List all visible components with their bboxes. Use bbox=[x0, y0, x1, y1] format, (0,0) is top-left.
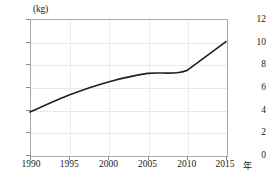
y-tick-label-0: 0 bbox=[240, 150, 266, 160]
x-tick-label-1995: 1995 bbox=[60, 159, 79, 170]
x-tick-label-2000: 2000 bbox=[99, 159, 118, 170]
x-tick-label-1990: 1990 bbox=[22, 159, 41, 170]
y-tick-label-8: 8 bbox=[240, 59, 266, 69]
series-line-layer bbox=[30, 19, 226, 155]
y-tick-label-12: 12 bbox=[240, 14, 266, 24]
chart-figure: (kg) 12 10 8 6 4 2 0 1990 1995 2000 2005… bbox=[0, 0, 266, 179]
data-series-line bbox=[30, 42, 226, 112]
y-tick-label-6: 6 bbox=[240, 82, 266, 92]
y-axis-unit-label: (kg) bbox=[33, 3, 48, 15]
y-tick-label-4: 4 bbox=[240, 105, 266, 115]
x-tick-label-2010: 2010 bbox=[177, 159, 196, 170]
x-tick-label-2005: 2005 bbox=[138, 159, 157, 170]
y-tick-label-2: 2 bbox=[240, 127, 266, 137]
y-tick-label-10: 10 bbox=[240, 37, 266, 47]
x-axis-unit-label: 年 bbox=[243, 160, 252, 172]
x-tick-label-2015: 2015 bbox=[216, 159, 235, 170]
